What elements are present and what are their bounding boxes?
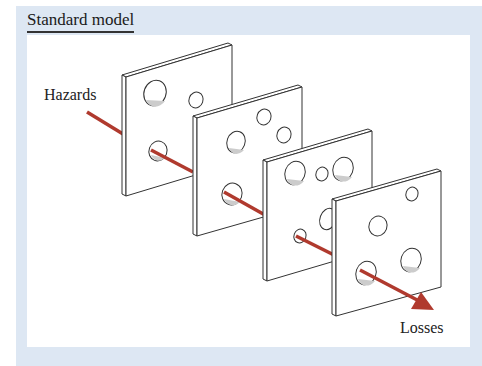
swiss-cheese-diagram <box>0 0 482 366</box>
losses-label: Losses <box>400 319 444 337</box>
hazards-label: Hazards <box>44 86 96 104</box>
hazard-arrow-segment <box>87 112 123 134</box>
